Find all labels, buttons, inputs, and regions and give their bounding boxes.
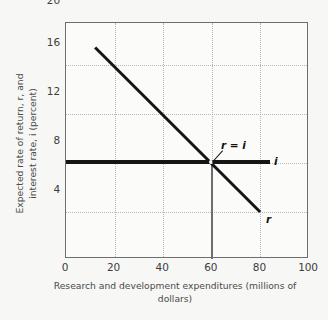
x-tick-80: 80 xyxy=(244,262,274,273)
y-axis-title-line-2: interest rate, i (percent) xyxy=(26,44,39,244)
y-axis-title: Expected rate of return, r, and interest… xyxy=(14,44,39,244)
gridline-y-12 xyxy=(66,114,307,115)
x-tick-40: 40 xyxy=(147,262,177,273)
y-tick-12: 12 xyxy=(47,86,60,97)
series-label-i: i xyxy=(274,155,278,167)
gridline-x-20 xyxy=(115,23,116,257)
x-axis-title-line-1: Research and development expenditures xyxy=(54,280,243,291)
x-tick-100: 100 xyxy=(293,262,323,273)
plot-area: r = i i r xyxy=(65,22,308,258)
x-axis-tick-labels: 0 20 40 60 80 100 xyxy=(65,262,308,276)
equilibrium-label: r = i xyxy=(221,139,246,151)
gridline-y-16 xyxy=(66,65,307,66)
y-axis-title-line-1: Expected rate of return, r, and xyxy=(14,44,27,244)
rate-of-return-line xyxy=(94,47,262,214)
x-axis-title: Research and development expenditures (m… xyxy=(40,280,310,305)
x-tick-60: 60 xyxy=(196,262,226,273)
gridline-x-40 xyxy=(163,23,164,257)
chart-figure: 20 16 12 8 4 r = i i r xyxy=(0,0,328,320)
x-tick-20: 20 xyxy=(99,262,129,273)
y-tick-20: 20 xyxy=(47,0,60,6)
x-tick-0: 0 xyxy=(50,262,80,273)
series-label-r: r xyxy=(266,213,271,225)
y-tick-8: 8 xyxy=(53,135,60,146)
interest-rate-line xyxy=(66,160,270,164)
gridline-x-80 xyxy=(260,23,261,257)
y-tick-16: 16 xyxy=(47,37,60,48)
equilibrium-drop-line xyxy=(211,163,213,259)
y-tick-4: 4 xyxy=(53,184,60,195)
